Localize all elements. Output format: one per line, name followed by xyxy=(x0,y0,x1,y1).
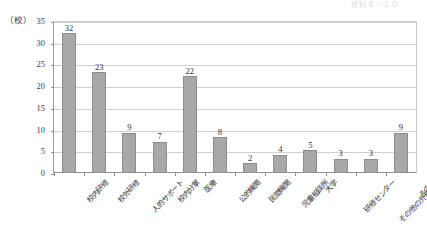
x-axis-category-label: 校外研修 xyxy=(114,177,142,205)
bar-slot: 3 xyxy=(356,22,386,172)
y-axis-tick-label: 30 xyxy=(25,38,45,48)
bar[interactable] xyxy=(273,155,287,172)
y-axis-tick-label: 25 xyxy=(25,59,45,69)
bar-slot: 5 xyxy=(295,22,325,172)
bar-slot: 22 xyxy=(175,22,205,172)
bar-slot: 32 xyxy=(54,22,84,172)
x-axis-tick-mark xyxy=(265,172,266,176)
bar[interactable] xyxy=(334,159,348,172)
bar-series: 322397228245339 xyxy=(54,22,416,172)
x-axis-tick-mark xyxy=(54,172,55,176)
x-axis-category-labels: 校内研修校外研修人的サポート校内分掌医療公的機関民間機関児童相談所大学研修センタ… xyxy=(53,177,417,247)
x-axis-category-label: 研修センター xyxy=(360,177,397,214)
y-axis-tick-label: 10 xyxy=(25,125,45,135)
bar[interactable] xyxy=(92,72,106,172)
bar-slot: 4 xyxy=(265,22,295,172)
y-axis-tick-label: 0 xyxy=(25,168,45,178)
y-axis-tick-label: 15 xyxy=(25,103,45,113)
bar[interactable] xyxy=(394,133,408,172)
bar[interactable] xyxy=(243,163,257,172)
bar-value-label: 7 xyxy=(157,132,161,141)
bar[interactable] xyxy=(153,142,167,172)
bar-value-label: 5 xyxy=(308,141,312,150)
bar-slot: 9 xyxy=(114,22,144,172)
x-axis-tick-mark xyxy=(205,172,206,176)
bar-value-label: 9 xyxy=(127,123,131,132)
x-axis-tick-mark xyxy=(175,172,176,176)
bar-slot: 3 xyxy=(326,22,356,172)
header-ghost-text: 資料４－１０ xyxy=(351,0,399,9)
bar-value-label: 8 xyxy=(218,128,222,137)
x-axis-tick-mark xyxy=(114,172,115,176)
x-axis-category-label: 医療 xyxy=(201,177,219,195)
x-axis-category-label: 公的機関 xyxy=(235,177,263,205)
bar[interactable] xyxy=(183,76,197,172)
bar[interactable] xyxy=(213,137,227,172)
bar-value-label: 4 xyxy=(278,145,282,154)
bar[interactable] xyxy=(122,133,136,172)
y-axis-tick-label: 5 xyxy=(25,146,45,156)
x-axis-tick-mark xyxy=(326,172,327,176)
bar-value-label: 3 xyxy=(339,149,343,158)
bar-slot: 2 xyxy=(235,22,265,172)
bar[interactable] xyxy=(364,159,378,172)
x-axis-tick-mark xyxy=(84,172,85,176)
x-axis-tick-mark xyxy=(356,172,357,176)
plot-area: 322397228245339 xyxy=(53,21,417,173)
chart-page: 資料４－１０ （校） 322397228245339 0510152025303… xyxy=(0,0,427,252)
bar-value-label: 9 xyxy=(399,123,403,132)
x-axis-category-label: 民間機関 xyxy=(265,177,293,205)
x-axis-tick-mark xyxy=(235,172,236,176)
bar-slot: 7 xyxy=(145,22,175,172)
bar[interactable] xyxy=(62,33,76,172)
bar-slot: 23 xyxy=(84,22,114,172)
y-axis-tick-label: 35 xyxy=(25,16,45,26)
y-axis-tick-label: 20 xyxy=(25,81,45,91)
bar-slot: 8 xyxy=(205,22,235,172)
x-axis-tick-mark xyxy=(386,172,387,176)
x-axis-tick-mark xyxy=(145,172,146,176)
bar-value-label: 22 xyxy=(186,67,195,76)
bar-value-label: 3 xyxy=(369,149,373,158)
bar-value-label: 23 xyxy=(95,63,104,72)
bar-value-label: 2 xyxy=(248,154,252,163)
bar[interactable] xyxy=(303,150,317,172)
bar-slot: 9 xyxy=(386,22,416,172)
x-axis-tick-mark xyxy=(295,172,296,176)
bar-value-label: 32 xyxy=(65,24,74,33)
x-axis-category-label: 校内研修 xyxy=(83,177,111,205)
